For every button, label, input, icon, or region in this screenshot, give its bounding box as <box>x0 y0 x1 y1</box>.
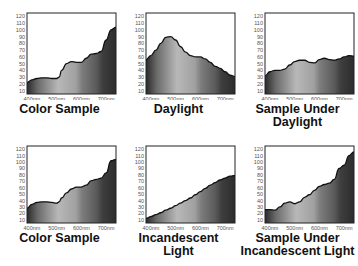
spectrum-area <box>27 27 116 94</box>
x-tick-label: 600nm <box>192 96 209 100</box>
x-tick-label: 600nm <box>311 96 328 100</box>
y-tick-label: 80 <box>257 172 263 178</box>
y-tick-label: 40 <box>138 198 144 204</box>
y-tick-label: 80 <box>257 40 263 46</box>
title-line: Color Sample <box>0 232 119 245</box>
y-tick-label: 100 <box>254 27 263 33</box>
x-tick-label: 700nm <box>98 225 115 231</box>
spectrum-plot: 102030405060708090100110120400nm500nm600… <box>0 133 119 233</box>
y-tick-label: 110 <box>135 20 144 26</box>
y-tick-label: 10 <box>19 217 25 223</box>
x-tick-label: 400nm <box>143 96 160 100</box>
y-tick-label: 60 <box>138 185 144 191</box>
y-tick-label: 70 <box>19 178 25 184</box>
y-tick-label: 40 <box>19 198 25 204</box>
chart-title: Sample Under Incandescent Light <box>238 232 357 258</box>
y-tick-label: 40 <box>257 198 263 204</box>
y-tick-label: 50 <box>257 191 263 197</box>
y-tick-label: 90 <box>19 34 25 40</box>
spectrum-plot: 102030405060708090100110120400nm500nm600… <box>238 133 358 233</box>
y-tick-label: 70 <box>257 178 263 184</box>
x-tick-label: 700nm <box>217 225 234 231</box>
y-tick-label: 110 <box>135 153 144 159</box>
x-tick-label: 500nm <box>167 96 184 100</box>
x-tick-label: 400nm <box>262 96 279 100</box>
y-tick-label: 80 <box>138 172 144 178</box>
y-tick-label: 30 <box>257 74 263 80</box>
y-tick-label: 10 <box>19 88 25 94</box>
y-tick-label: 30 <box>138 204 144 210</box>
y-tick-label: 60 <box>19 185 25 191</box>
title-line: Color Sample <box>0 103 119 116</box>
y-tick-label: 90 <box>138 34 144 40</box>
chart-sample-under-daylight: 102030405060708090100110120400nm500nm600… <box>238 0 357 133</box>
y-tick-label: 120 <box>254 146 263 152</box>
y-tick-label: 20 <box>257 81 263 87</box>
y-tick-label: 100 <box>254 159 263 165</box>
y-tick-label: 40 <box>257 67 263 73</box>
y-tick-label: 10 <box>138 217 144 223</box>
y-tick-label: 90 <box>257 165 263 171</box>
chart-color-sample-bottom: 102030405060708090100110120400nm500nm600… <box>0 133 119 266</box>
y-tick-label: 120 <box>135 13 144 19</box>
x-tick-label: 400nm <box>24 96 41 100</box>
spectrum-plot: 102030405060708090100110120400nm500nm600… <box>238 0 358 100</box>
y-tick-label: 110 <box>16 153 25 159</box>
y-tick-label: 70 <box>257 47 263 53</box>
y-tick-label: 110 <box>254 153 263 159</box>
y-tick-label: 30 <box>19 204 25 210</box>
y-tick-label: 80 <box>138 40 144 46</box>
y-tick-label: 60 <box>257 185 263 191</box>
spectrum-plot: 102030405060708090100110120400nm500nm600… <box>119 133 238 233</box>
y-tick-label: 30 <box>19 74 25 80</box>
y-tick-label: 20 <box>19 210 25 216</box>
y-tick-label: 90 <box>138 165 144 171</box>
y-tick-label: 40 <box>19 67 25 73</box>
y-tick-label: 10 <box>257 88 263 94</box>
y-tick-label: 100 <box>135 159 144 165</box>
spectrum-area <box>27 159 116 223</box>
y-tick-label: 60 <box>19 54 25 60</box>
x-tick-label: 600nm <box>73 96 90 100</box>
chart-title: Daylight <box>119 103 238 116</box>
chart-sample-under-incandescent: 102030405060708090100110120400nm500nm600… <box>238 133 357 266</box>
y-tick-label: 60 <box>257 54 263 60</box>
y-tick-label: 70 <box>138 178 144 184</box>
y-tick-label: 120 <box>254 13 263 19</box>
title-line: Incandescent Light <box>238 245 357 258</box>
y-tick-label: 60 <box>138 54 144 60</box>
y-tick-label: 50 <box>138 61 144 67</box>
x-tick-label: 500nm <box>286 96 303 100</box>
y-tick-label: 20 <box>19 81 25 87</box>
y-tick-label: 50 <box>19 61 25 67</box>
chart-daylight: 102030405060708090100110120400nm500nm600… <box>119 0 238 133</box>
y-tick-label: 90 <box>19 165 25 171</box>
chart-title: Sample Under Daylight <box>238 103 357 129</box>
spectrum-plot: 102030405060708090100110120400nm500nm600… <box>0 0 119 100</box>
chart-color-sample-top: 102030405060708090100110120400nm500nm600… <box>0 0 119 133</box>
title-line: Daylight <box>238 116 357 129</box>
y-tick-label: 10 <box>257 217 263 223</box>
x-tick-label: 500nm <box>48 96 65 100</box>
x-tick-label: 700nm <box>98 96 115 100</box>
y-tick-label: 80 <box>19 172 25 178</box>
spectrum-plot: 102030405060708090100110120400nm500nm600… <box>119 0 238 100</box>
y-tick-label: 100 <box>135 27 144 33</box>
y-tick-label: 100 <box>16 159 25 165</box>
y-tick-label: 120 <box>135 146 144 152</box>
y-tick-label: 20 <box>257 210 263 216</box>
spectrum-area <box>146 176 235 223</box>
y-tick-label: 110 <box>254 20 263 26</box>
chart-title: Color Sample <box>0 232 119 245</box>
y-tick-label: 50 <box>19 191 25 197</box>
title-line: Light <box>119 245 238 258</box>
x-tick-label: 700nm <box>217 96 234 100</box>
y-tick-label: 30 <box>257 204 263 210</box>
y-tick-label: 120 <box>16 13 25 19</box>
chart-title: Color Sample <box>0 103 119 116</box>
y-tick-label: 120 <box>16 146 25 152</box>
spectrum-area <box>265 56 354 94</box>
chart-incandescent-light: 102030405060708090100110120400nm500nm600… <box>119 133 238 266</box>
y-tick-label: 20 <box>138 81 144 87</box>
chart-title: Incandescent Light <box>119 232 238 258</box>
